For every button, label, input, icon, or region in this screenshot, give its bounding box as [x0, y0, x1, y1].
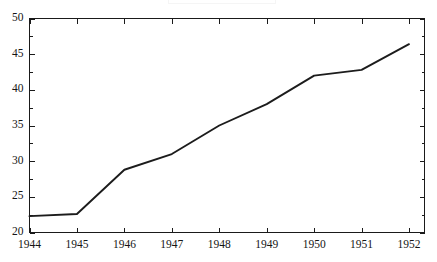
y-tick-label: 30: [12, 154, 24, 166]
y-tick-label: 25: [12, 189, 24, 201]
y-axis-minor-ticks: [30, 37, 425, 216]
x-tick-label: 1944: [18, 238, 41, 250]
y-tick-label: 40: [12, 82, 24, 94]
x-axis-tick-labels: 194419451946194719481949195019511952: [18, 238, 421, 250]
x-tick-label: 1951: [350, 238, 373, 250]
y-tick-label: 45: [12, 47, 24, 59]
cropped-caption-remnant: [168, 0, 276, 4]
y-tick-label: 20: [12, 225, 24, 237]
x-tick-label: 1952: [398, 238, 421, 250]
y-tick-label: 35: [12, 118, 24, 130]
y-tick-label: 50: [12, 11, 24, 23]
x-tick-label: 1946: [113, 238, 136, 250]
x-tick-label: 1947: [160, 238, 183, 250]
y-axis-major-ticks: [30, 20, 425, 234]
data-series-line: [30, 44, 410, 216]
line-chart: 20253035404550 1944194519461947194819491…: [0, 0, 437, 262]
x-tick-label: 1950: [303, 238, 326, 250]
x-tick-label: 1948: [208, 238, 231, 250]
axis-frame: [30, 19, 425, 233]
x-tick-label: 1945: [65, 238, 88, 250]
x-tick-label: 1949: [255, 238, 278, 250]
plot-area: 20253035404550 1944194519461947194819491…: [0, 0, 437, 262]
y-axis-tick-labels: 20253035404550: [12, 11, 24, 237]
